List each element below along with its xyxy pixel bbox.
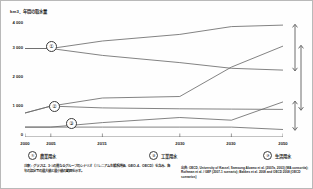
legend-label-industry: 工業用水 xyxy=(161,154,177,159)
group-marker-agriculture: ① xyxy=(46,41,57,52)
legend-item-agriculture: ①農業用水 xyxy=(28,151,56,160)
y-axis-tick-3000: 3 000 xyxy=(5,45,23,50)
y-axis-unit-label: km3、年間の取水量 xyxy=(10,8,48,14)
x-axis-tick-4: 2030 xyxy=(220,141,242,146)
chart-note: 注釈 : グラフは、3つの異なるグループのシナリオ（ミレニアム生態系評価、GEO… xyxy=(24,164,172,174)
range-arrows xyxy=(287,17,309,137)
group-marker-domestic: ③ xyxy=(66,118,77,129)
x-axis-tick-0: 2000 xyxy=(14,141,36,146)
chart-source: 出典: OECD, University of Kassel, Samsung … xyxy=(181,166,309,179)
line-ind-low xyxy=(25,106,283,113)
y-axis-tick-1000: 1 000 xyxy=(5,103,23,108)
legend-label-agriculture: 農業用水 xyxy=(40,154,56,159)
x-axis-tick-1: 2005 xyxy=(40,141,62,146)
legend-marker-industry: ② xyxy=(149,151,158,160)
line-dom-high xyxy=(25,102,283,127)
chart-figure: km3、年間の取水量 4 000 3 000 2 000 1 000 0 xyxy=(0,0,313,189)
legend-marker-agriculture: ① xyxy=(28,151,37,160)
x-axis-ticks xyxy=(25,134,283,138)
chart-svg xyxy=(25,17,283,137)
group-marker-industry: ② xyxy=(49,101,60,112)
line-dom-low xyxy=(25,127,283,129)
line-ind-high xyxy=(25,46,283,113)
legend-item-domestic: ③生活用水 xyxy=(263,151,291,160)
line-agri-low xyxy=(25,49,283,71)
x-axis-tick-2: 2015 xyxy=(91,141,113,146)
legend-label-domestic: 生活用水 xyxy=(275,154,291,159)
plot-area xyxy=(25,17,283,137)
x-axis-tick-3: 2030 xyxy=(169,141,191,146)
y-axis-tick-0: 0 xyxy=(5,132,23,137)
legend-marker-domestic: ③ xyxy=(263,151,272,160)
y-axis-tick-2000: 2 000 xyxy=(5,74,23,79)
y-axis-tick-4000: 4 000 xyxy=(5,20,23,25)
legend-item-industry: ②工業用水 xyxy=(149,151,177,160)
series-lines xyxy=(25,25,283,129)
x-axis-tick-5: 2050 xyxy=(272,141,294,146)
line-agri-high xyxy=(25,25,283,48)
